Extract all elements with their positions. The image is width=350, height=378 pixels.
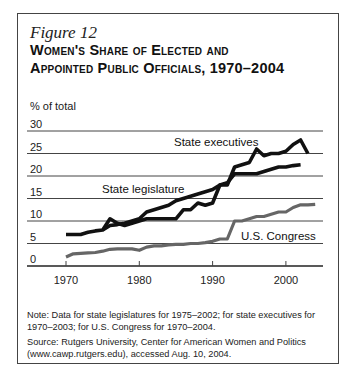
series-state-legislature	[103, 165, 301, 230]
y-tick-label: 25	[30, 141, 42, 153]
label-state-executives: State executives	[174, 136, 259, 148]
y-tick-label: 30	[30, 118, 42, 130]
x-axis: 1970198019902000	[54, 261, 298, 286]
y-tick-label: 5	[30, 231, 36, 243]
x-tick-label: 2000	[274, 274, 298, 286]
y-tick-label: 20	[30, 163, 42, 175]
y-tick-labels: 051015202530	[30, 118, 42, 265]
chart-notes: Note: Data for state legislatures for 19…	[27, 309, 332, 363]
label-u-s-congress: U.S. Congress	[241, 230, 316, 242]
y-tick-label: 0	[30, 253, 36, 265]
y-tick-label: 15	[30, 186, 42, 198]
note-text: Note: Data for state legislatures for 19…	[27, 309, 332, 333]
x-tick-label: 1980	[127, 274, 151, 286]
x-tick-label: 1990	[200, 274, 224, 286]
x-tick-label: 1970	[54, 274, 78, 286]
y-tick-label: 10	[30, 208, 42, 220]
label-state-legislature: State legislature	[102, 183, 184, 195]
source-text: Source: Rutgers University, Center for A…	[27, 336, 332, 360]
